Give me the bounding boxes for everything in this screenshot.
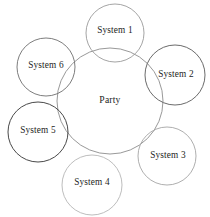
system-3-label: System 3 [150, 150, 186, 160]
party-systems-diagram: System 1 System 2 System 3 System 4 Syst… [0, 0, 210, 217]
system-node-group-2[interactable]: System 2 [145, 45, 205, 105]
system-5-label: System 5 [20, 125, 56, 135]
system-2-label: System 2 [158, 69, 194, 79]
system-4-label: System 4 [74, 177, 110, 187]
system-1-label: System 1 [97, 25, 133, 35]
system-node-group-4[interactable]: System 4 [62, 155, 122, 215]
venn-diagram-svg: System 1 System 2 System 3 System 4 Syst… [0, 0, 210, 217]
system-6-label: System 6 [28, 60, 64, 70]
system-node-group-1[interactable]: System 1 [86, 4, 144, 62]
center-node-label: Party [99, 94, 120, 105]
system-node-group-5[interactable]: System 5 [8, 102, 68, 162]
system-node-group-6[interactable]: System 6 [17, 38, 75, 96]
system-node-group-3[interactable]: System 3 [138, 127, 196, 185]
